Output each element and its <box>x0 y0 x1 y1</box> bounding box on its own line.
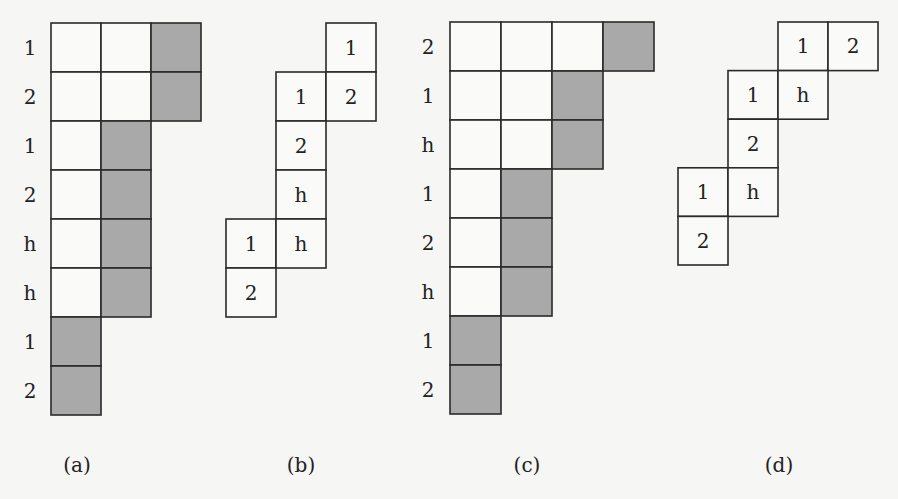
diagram-canvas: 1212hh12 1122h1h2 21h12h12 121h21h2 (a) … <box>0 0 898 499</box>
cell-label: h <box>797 83 810 107</box>
empty-cell <box>101 23 151 72</box>
row-label: 1 <box>24 134 37 158</box>
row-label: 1 <box>24 330 37 354</box>
empty-cell <box>450 169 501 218</box>
cell-label: h <box>747 180 760 204</box>
figure-d: 121h21h2 <box>678 22 878 265</box>
empty-cell <box>51 23 101 72</box>
shaded-cell <box>501 169 552 218</box>
shaded-cell <box>101 268 151 317</box>
caption-c: (c) <box>514 453 541 477</box>
cell-label: 1 <box>345 36 358 60</box>
empty-cell <box>51 170 101 219</box>
empty-cell <box>450 218 501 267</box>
cell-label: 2 <box>245 281 258 305</box>
empty-cell <box>450 120 501 169</box>
empty-cell <box>450 71 501 120</box>
row-label: 2 <box>422 378 435 402</box>
row-label: 2 <box>24 183 37 207</box>
empty-cell <box>51 219 101 268</box>
shaded-cell <box>501 218 552 267</box>
empty-cell <box>450 267 501 316</box>
empty-cell <box>51 72 101 121</box>
empty-cell <box>501 120 552 169</box>
shaded-cell <box>101 219 151 268</box>
row-label: 1 <box>422 329 435 353</box>
caption-b: (b) <box>287 453 315 477</box>
row-label: 2 <box>422 35 435 59</box>
row-label: h <box>422 133 435 157</box>
cell-label: 2 <box>295 134 308 158</box>
cell-label: 1 <box>295 85 308 109</box>
shaded-cell <box>151 23 201 72</box>
shaded-cell <box>51 366 101 415</box>
cell-label: 2 <box>847 34 860 58</box>
shaded-cell <box>151 72 201 121</box>
figure-b: 1122h1h2 <box>226 23 376 317</box>
shaded-cell <box>552 120 603 169</box>
caption-d: (d) <box>765 453 793 477</box>
row-label: 1 <box>422 84 435 108</box>
empty-cell <box>501 22 552 71</box>
shaded-cell <box>101 121 151 170</box>
row-label: 1 <box>422 182 435 206</box>
empty-cell <box>552 22 603 71</box>
shaded-cell <box>450 316 501 365</box>
cell-label: h <box>295 232 308 256</box>
row-label: 2 <box>422 231 435 255</box>
empty-cell <box>101 72 151 121</box>
empty-cell <box>450 22 501 71</box>
cell-label: 2 <box>345 85 358 109</box>
figure-c: 21h12h12 <box>422 22 654 414</box>
row-label: 2 <box>24 379 37 403</box>
row-label: h <box>24 281 37 305</box>
empty-cell <box>501 71 552 120</box>
cell-label: 1 <box>797 34 810 58</box>
row-label: h <box>24 232 37 256</box>
cell-label: 1 <box>747 83 760 107</box>
shaded-cell <box>51 317 101 366</box>
caption-a: (a) <box>63 453 91 477</box>
cell-label: 2 <box>697 229 710 253</box>
empty-cell <box>51 121 101 170</box>
shaded-cell <box>603 22 654 71</box>
row-label: 1 <box>24 36 37 60</box>
cell-label: 1 <box>697 180 710 204</box>
cell-label: h <box>295 183 308 207</box>
shaded-cell <box>450 365 501 414</box>
row-label: h <box>422 280 435 304</box>
cell-label: 1 <box>245 232 258 256</box>
shaded-cell <box>501 267 552 316</box>
row-label: 2 <box>24 85 37 109</box>
shaded-cell <box>101 170 151 219</box>
empty-cell <box>51 268 101 317</box>
figure-a: 1212hh12 <box>24 23 201 415</box>
shaded-cell <box>552 71 603 120</box>
cell-label: 2 <box>747 132 760 156</box>
